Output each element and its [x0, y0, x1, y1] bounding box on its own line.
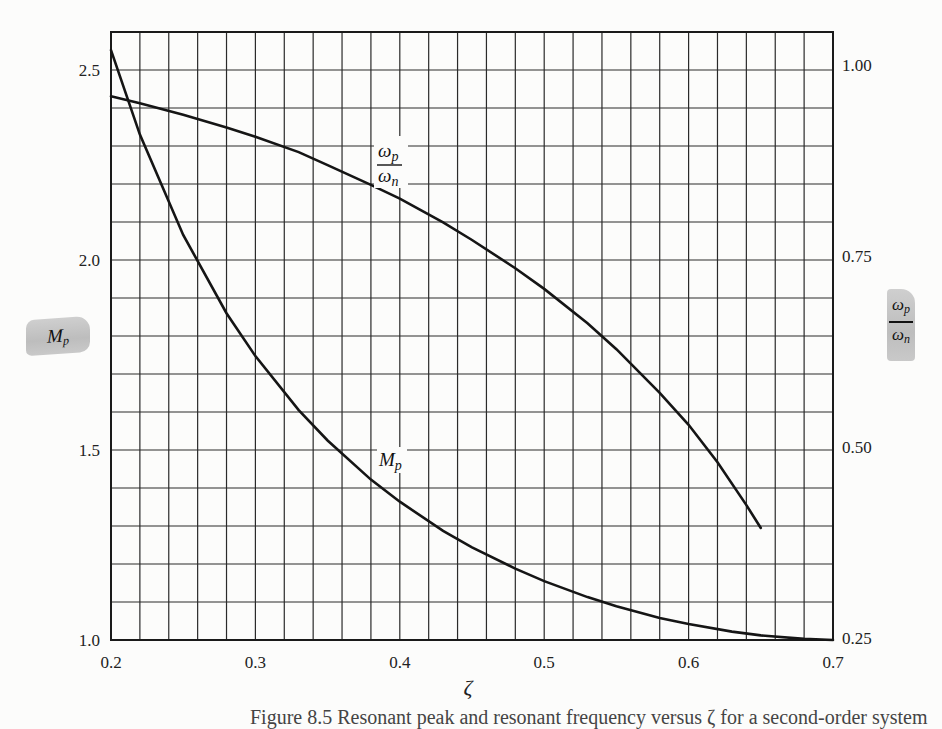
grid [111, 32, 833, 640]
x-tick-label: 0.3 [245, 653, 266, 672]
left-axis-label-mp: Mp [26, 316, 90, 356]
x-tick-label: 0.6 [678, 653, 699, 672]
x-tick-label: 0.5 [534, 653, 555, 672]
right-tick-label: 0.50 [842, 438, 872, 457]
figure-caption: Figure 8.5 Resonant peak and resonant fr… [250, 706, 810, 729]
x-tick-label: 0.2 [100, 653, 121, 672]
right-axis-ticks: 0.250.500.751.00 [842, 56, 872, 648]
wp-wn-curve [111, 96, 761, 528]
right-tick-label: 0.75 [842, 247, 872, 266]
x-axis-ticks: 0.20.30.40.50.60.7 [100, 653, 844, 672]
left-axis-ticks: 1.01.52.02.5 [79, 61, 100, 650]
left-tick-label: 1.0 [79, 631, 100, 650]
left-tick-label: 1.5 [79, 441, 100, 460]
mp-curve [111, 50, 833, 640]
x-tick-label: 0.7 [822, 653, 844, 672]
right-axis-label-wp-wn: ωp ωn [887, 289, 915, 361]
x-tick-label: 0.4 [389, 653, 411, 672]
wp-wn-curve-label: ωp ωn [374, 136, 408, 189]
mp-curve-label: Mp [377, 447, 407, 473]
x-axis-label: ζ [464, 675, 475, 700]
left-tick-label: 2.5 [79, 61, 100, 80]
right-tick-label: 1.00 [842, 56, 872, 75]
left-tick-label: 2.0 [79, 251, 100, 270]
right-tick-label: 0.25 [842, 629, 872, 648]
